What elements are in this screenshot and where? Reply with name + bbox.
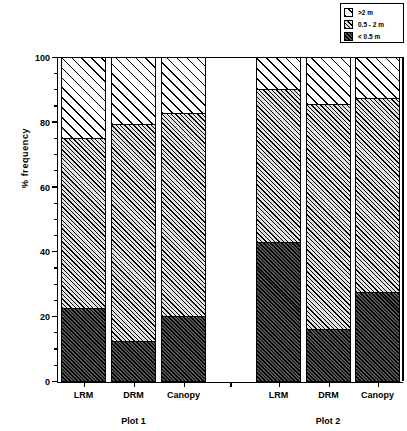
stacked-bar — [256, 58, 301, 382]
y-tick-minor — [54, 138, 58, 139]
legend-swatch-gt2-icon — [344, 8, 353, 17]
x-tick — [230, 382, 232, 387]
legend-swatch-lt05-icon — [344, 32, 353, 41]
x-axis-category-label: DRM — [123, 390, 144, 400]
x-tick — [134, 382, 136, 387]
y-axis-title: % frequency — [20, 128, 30, 188]
y-tick-minor — [54, 170, 58, 171]
chart-plot-area: % frequency 020406080100 LRMDRMCanopyLRM… — [57, 57, 403, 383]
y-tick-minor — [54, 219, 58, 220]
y-tick-minor — [54, 73, 58, 74]
y-tick-minor — [54, 154, 58, 155]
x-axis-group-label: Plot 1 — [121, 416, 146, 426]
bar-segment-mid — [61, 138, 106, 309]
legend-label-mid: 0.5 - 2 m — [358, 20, 384, 29]
bar-segment-gt2 — [61, 57, 106, 139]
y-tick-minor — [54, 105, 58, 106]
legend-item-lt05: < 0.5 m — [344, 31, 400, 42]
bar-segment-lt05 — [355, 292, 400, 382]
y-tick-label: 40 — [40, 247, 50, 257]
stacked-bar — [161, 58, 206, 382]
plot-right-spine — [402, 57, 404, 381]
x-tick — [184, 382, 186, 387]
stacked-bar — [355, 58, 400, 382]
y-tick-minor — [54, 235, 58, 236]
y-tick-major — [52, 381, 58, 383]
y-tick-minor — [54, 89, 58, 90]
bar-segment-gt2 — [111, 57, 156, 125]
y-tick-major — [52, 251, 58, 253]
bar-segment-lt05 — [161, 316, 206, 382]
x-axis-group-label: Plot 2 — [316, 416, 341, 426]
y-tick-minor — [54, 267, 58, 268]
bar-segment-mid — [111, 124, 156, 342]
y-tick-major — [52, 57, 58, 59]
y-tick-major — [52, 121, 58, 123]
bar-segment-mid — [306, 104, 351, 330]
stacked-bar — [111, 58, 156, 382]
bar-segment-lt05 — [61, 308, 106, 382]
y-tick-label: 60 — [40, 183, 50, 193]
y-tick-label: 80 — [40, 118, 50, 128]
bar-segment-lt05 — [111, 341, 156, 382]
bar-segment-mid — [161, 113, 206, 317]
x-axis-category-label: Canopy — [361, 390, 394, 400]
x-axis-category-label: LRM — [269, 390, 289, 400]
bar-segment-mid — [355, 98, 400, 293]
y-tick-minor — [54, 332, 58, 333]
x-tick — [378, 382, 380, 387]
y-tick-label: 20 — [40, 312, 50, 322]
legend-label-lt05: < 0.5 m — [358, 32, 380, 41]
x-tick — [279, 382, 281, 387]
x-axis-category-label: Canopy — [167, 390, 200, 400]
y-tick-minor — [54, 365, 58, 366]
bar-segment-mid — [256, 89, 301, 242]
x-axis-category-label: DRM — [318, 390, 339, 400]
chart-legend: >2 m 0.5 - 2 m < 0.5 m — [340, 3, 404, 43]
bar-segment-gt2 — [256, 57, 301, 90]
bar-segment-lt05 — [306, 329, 351, 382]
y-tick-major — [52, 186, 58, 188]
legend-label-gt2: >2 m — [358, 8, 373, 17]
stacked-bar — [61, 58, 106, 382]
legend-item-mid: 0.5 - 2 m — [344, 19, 400, 30]
x-tick — [84, 382, 86, 387]
x-tick — [329, 382, 331, 387]
bar-segment-gt2 — [355, 57, 400, 99]
stacked-bar — [306, 58, 351, 382]
y-tick-minor — [54, 300, 58, 301]
y-tick-label: 0 — [45, 377, 50, 387]
legend-swatch-mid-icon — [344, 20, 353, 29]
bar-segment-gt2 — [306, 57, 351, 105]
y-tick-minor — [54, 203, 58, 204]
x-axis-category-label: LRM — [74, 390, 94, 400]
legend-item-gt2: >2 m — [344, 7, 400, 18]
y-tick-minor — [54, 348, 58, 349]
bar-segment-lt05 — [256, 242, 301, 382]
y-tick-minor — [54, 284, 58, 285]
bar-segment-gt2 — [161, 57, 206, 114]
y-tick-major — [52, 316, 58, 318]
y-tick-label: 100 — [35, 53, 50, 63]
